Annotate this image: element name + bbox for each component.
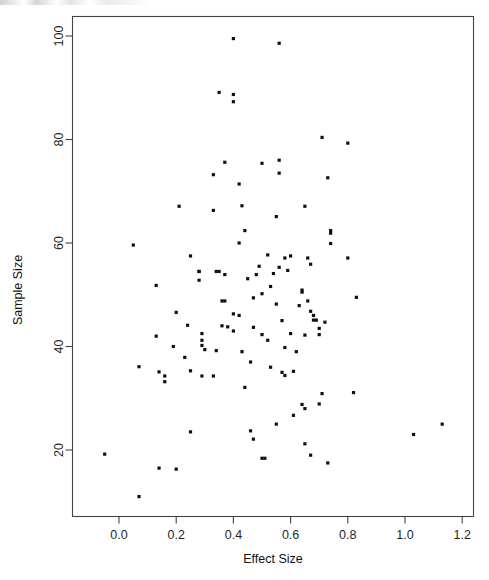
- y-axis-title: Sample Size: [11, 255, 25, 325]
- data-point: [280, 319, 283, 322]
- data-point: [266, 339, 269, 342]
- data-point: [238, 182, 241, 185]
- data-point: [326, 461, 329, 464]
- x-tick-label: 1.0: [396, 528, 413, 542]
- data-point: [226, 325, 229, 328]
- data-point: [175, 311, 178, 314]
- data-point: [269, 285, 272, 288]
- data-point: [155, 284, 158, 287]
- data-point: [329, 242, 332, 245]
- data-point: [315, 319, 318, 322]
- data-point: [318, 333, 321, 336]
- y-tick-label: 80: [52, 133, 66, 147]
- x-tick-label: 0.6: [282, 528, 299, 542]
- y-tick-label: 40: [52, 340, 66, 354]
- y-tick-label: 20: [52, 443, 66, 457]
- data-point: [309, 310, 312, 313]
- data-point: [212, 173, 215, 176]
- data-point: [155, 335, 158, 338]
- data-point: [289, 254, 292, 257]
- data-point: [303, 334, 306, 337]
- data-point: [252, 296, 255, 299]
- data-point: [240, 204, 243, 207]
- data-point: [197, 270, 200, 273]
- data-point: [441, 423, 444, 426]
- data-point: [215, 270, 218, 273]
- data-point: [238, 241, 241, 244]
- data-point: [278, 159, 281, 162]
- data-point: [200, 344, 203, 347]
- data-point: [309, 263, 312, 266]
- plot-frame: [73, 17, 474, 517]
- data-point: [260, 162, 263, 165]
- x-tick-label: 0.2: [168, 528, 185, 542]
- data-point: [303, 407, 306, 410]
- y-tick-label: 60: [52, 236, 66, 250]
- x-tick-label: 1.2: [454, 528, 471, 542]
- data-point: [260, 292, 263, 295]
- data-points-layer: [103, 37, 444, 498]
- data-point: [312, 314, 315, 317]
- data-point: [186, 324, 189, 327]
- data-point: [298, 304, 301, 307]
- data-point: [318, 327, 321, 330]
- data-point: [280, 371, 283, 374]
- data-point: [300, 288, 303, 291]
- data-point: [223, 299, 226, 302]
- data-point: [163, 380, 166, 383]
- data-point: [412, 433, 415, 436]
- data-point: [346, 142, 349, 145]
- data-point: [275, 215, 278, 218]
- data-point: [289, 332, 292, 335]
- data-point: [355, 296, 358, 299]
- data-point: [272, 272, 275, 275]
- data-point: [275, 302, 278, 305]
- data-point: [306, 256, 309, 259]
- x-tick-label: 0.8: [339, 528, 356, 542]
- data-point: [306, 299, 309, 302]
- data-point: [177, 205, 180, 208]
- x-tick-label: 0.4: [225, 528, 242, 542]
- data-point: [189, 430, 192, 433]
- data-point: [266, 253, 269, 256]
- data-point: [283, 374, 286, 377]
- data-point: [309, 454, 312, 457]
- data-point: [252, 326, 255, 329]
- data-point: [320, 392, 323, 395]
- data-point: [255, 273, 258, 276]
- data-point: [157, 370, 160, 373]
- data-point: [275, 423, 278, 426]
- data-point: [283, 256, 286, 259]
- data-point: [295, 350, 298, 353]
- data-point: [103, 453, 106, 456]
- data-point: [278, 42, 281, 45]
- data-point: [320, 136, 323, 139]
- data-point: [232, 37, 235, 40]
- data-point: [352, 391, 355, 394]
- x-axis-ticks: 0.00.20.40.60.81.01.2: [110, 517, 471, 542]
- data-point: [175, 468, 178, 471]
- data-point: [278, 266, 281, 269]
- x-tick-label: 0.0: [110, 528, 127, 542]
- data-point: [323, 321, 326, 324]
- data-point: [223, 273, 226, 276]
- data-point: [260, 457, 263, 460]
- data-point: [238, 314, 241, 317]
- scatter-plot-figure: 0.00.20.40.60.81.01.2 20406080100 Effect…: [0, 0, 489, 580]
- data-point: [232, 93, 235, 96]
- data-point: [286, 269, 289, 272]
- data-point: [203, 348, 206, 351]
- data-point: [263, 457, 266, 460]
- data-point: [300, 403, 303, 406]
- data-point: [283, 346, 286, 349]
- data-point: [157, 467, 160, 470]
- data-point: [260, 333, 263, 336]
- data-point: [132, 243, 135, 246]
- data-point: [183, 356, 186, 359]
- data-point: [303, 205, 306, 208]
- data-point: [200, 332, 203, 335]
- data-point: [232, 329, 235, 332]
- data-point: [326, 176, 329, 179]
- data-point: [163, 374, 166, 377]
- data-point: [197, 279, 200, 282]
